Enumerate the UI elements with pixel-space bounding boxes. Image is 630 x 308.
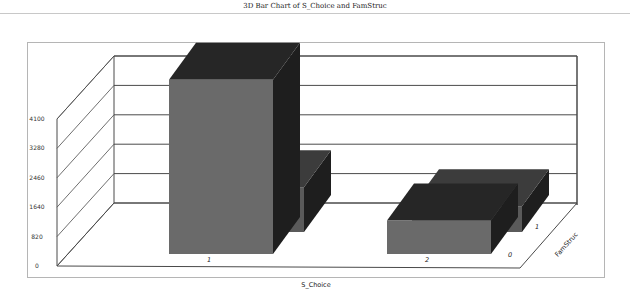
- bars: [169, 43, 549, 254]
- gridline-side: [57, 115, 114, 178]
- x-tick-label: 1: [207, 256, 211, 264]
- bar-side: [273, 43, 300, 254]
- y-tick-label: 3280: [29, 144, 44, 151]
- z-tick-label: 0: [508, 251, 512, 259]
- gridline-side: [57, 56, 114, 119]
- z-axis-title: FamStruc: [553, 230, 580, 258]
- chart-container: 3D Bar Chart of S_Choice and FamStruc 08…: [0, 0, 630, 308]
- bar-front: [169, 80, 273, 254]
- bar-1-famstruc-0[interactable]: [169, 43, 300, 254]
- y-axis-ticks: 08201640246032804100: [29, 115, 44, 269]
- z-tick-label: 1: [535, 223, 539, 231]
- y-tick-label: 1640: [29, 203, 44, 210]
- y-tick-label: 4100: [29, 115, 44, 122]
- y-tick-label: 2460: [29, 174, 44, 181]
- x-axis-title: S_Choice: [301, 281, 330, 289]
- y-tick-label: 820: [31, 233, 43, 240]
- bar-front: [387, 220, 491, 254]
- bar-chart-3d: 08201640246032804100 1201 S_Choice FamSt…: [0, 0, 630, 308]
- y-tick-label: 0: [35, 262, 39, 269]
- gridline-side: [57, 144, 114, 207]
- gridline-side: [57, 174, 114, 237]
- bar-2-famstruc-0[interactable]: [387, 183, 518, 254]
- gridline-side: [57, 85, 114, 148]
- x-tick-label: 2: [425, 256, 429, 264]
